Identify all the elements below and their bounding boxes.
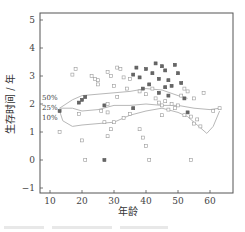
y-tick-label: 4 <box>29 43 35 53</box>
data-point <box>167 79 170 82</box>
data-point <box>164 69 167 72</box>
data-point <box>71 73 74 76</box>
data-point <box>183 87 186 90</box>
data-point <box>138 76 141 79</box>
data-point <box>116 66 119 69</box>
data-point <box>106 70 109 73</box>
data-point <box>135 66 138 69</box>
data-point <box>161 104 164 107</box>
data-point <box>218 107 221 110</box>
data-point <box>202 91 205 94</box>
data-point <box>103 121 106 124</box>
data-point <box>177 72 180 75</box>
data-point <box>58 110 61 113</box>
y-tick-label: −1 <box>22 183 35 193</box>
data-point <box>113 121 116 124</box>
data-point <box>109 128 112 131</box>
y-tick-label: 3 <box>29 71 35 81</box>
data-point <box>132 73 135 76</box>
data-point <box>193 97 196 100</box>
data-point <box>151 72 154 75</box>
data-point <box>125 87 128 90</box>
data-point <box>154 62 157 65</box>
data-point <box>196 118 199 121</box>
data-point <box>74 68 77 71</box>
data-point <box>141 136 144 139</box>
data-point <box>119 68 122 71</box>
quantile-curve-25pct <box>60 104 220 111</box>
curve-labels: 50%25%10% <box>42 94 58 122</box>
data-point <box>157 91 160 94</box>
data-point <box>132 107 135 110</box>
y-tick-label: 1 <box>29 127 35 137</box>
data-point <box>58 131 61 134</box>
x-tick-label: 10 <box>44 196 56 206</box>
data-point <box>148 83 151 86</box>
data-point <box>93 77 96 80</box>
data-point <box>164 100 167 103</box>
data-point <box>212 110 215 113</box>
data-point <box>177 104 180 107</box>
data-point <box>180 82 183 85</box>
data-point <box>180 94 183 97</box>
data-point <box>173 107 176 110</box>
data-point <box>145 93 148 96</box>
data-point <box>189 159 192 162</box>
x-tick-label: 20 <box>76 196 88 206</box>
data-point <box>145 68 148 71</box>
data-point <box>106 135 109 138</box>
data-point <box>106 111 109 114</box>
data-point <box>113 84 116 87</box>
data-point <box>138 128 141 131</box>
y-axis-label: 生存时间 / 年 <box>4 74 16 134</box>
x-tick-label: 50 <box>172 196 184 206</box>
data-point <box>193 122 196 125</box>
data-point <box>148 159 151 162</box>
caption-placeholder <box>52 226 112 229</box>
data-point <box>164 86 167 89</box>
data-point <box>161 114 164 117</box>
y-tick-label: 2 <box>29 99 35 109</box>
data-point <box>103 104 106 107</box>
plot-frame <box>40 13 233 193</box>
data-point <box>116 96 119 99</box>
data-point <box>81 98 84 101</box>
survival-scatter-chart: −1012345 102030405060 50%25%10% 年龄 生存时间 … <box>0 0 245 232</box>
curve-label: 50% <box>42 94 58 102</box>
data-point <box>122 117 125 120</box>
data-point <box>109 75 112 78</box>
data-point <box>81 139 84 142</box>
data-point <box>170 103 173 106</box>
y-tick-label: 0 <box>29 155 35 165</box>
y-tick-label: 5 <box>29 15 35 25</box>
data-point <box>141 87 144 90</box>
data-point <box>183 114 186 117</box>
x-tick-label: 40 <box>140 196 152 206</box>
data-point <box>90 75 93 78</box>
caption-placeholder <box>120 226 168 229</box>
data-point <box>77 101 80 104</box>
data-point <box>173 63 176 66</box>
data-point <box>129 112 132 115</box>
x-axis-ticks: 102030405060 <box>44 190 216 206</box>
data-point <box>167 94 170 97</box>
data-point <box>103 159 106 162</box>
data-point <box>106 103 109 106</box>
x-tick-label: 60 <box>204 196 216 206</box>
data-point <box>97 79 100 82</box>
data-points <box>58 62 221 162</box>
data-point <box>145 145 148 148</box>
x-axis-label: 年龄 <box>118 205 138 217</box>
data-point <box>84 96 87 99</box>
data-point <box>167 108 170 111</box>
curve-label: 25% <box>42 104 58 112</box>
data-point <box>157 77 160 80</box>
data-point <box>97 83 100 86</box>
data-point <box>170 84 173 87</box>
data-point <box>189 115 192 118</box>
data-point <box>154 97 157 100</box>
data-point <box>183 97 186 100</box>
data-point <box>186 90 189 93</box>
data-point <box>138 90 141 93</box>
data-point <box>199 125 202 128</box>
